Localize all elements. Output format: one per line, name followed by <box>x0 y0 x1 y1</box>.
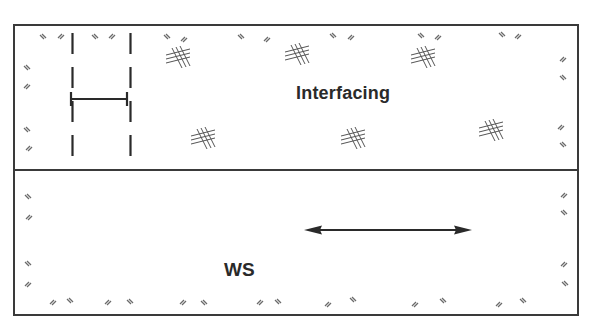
wrong-side-label: WS <box>224 259 255 281</box>
interfacing-label: Interfacing <box>296 83 390 104</box>
fabric-edge-ticks <box>25 193 568 307</box>
grainline-arrow <box>304 226 472 235</box>
diagram-canvas <box>0 0 592 326</box>
width-marker <box>71 92 127 106</box>
